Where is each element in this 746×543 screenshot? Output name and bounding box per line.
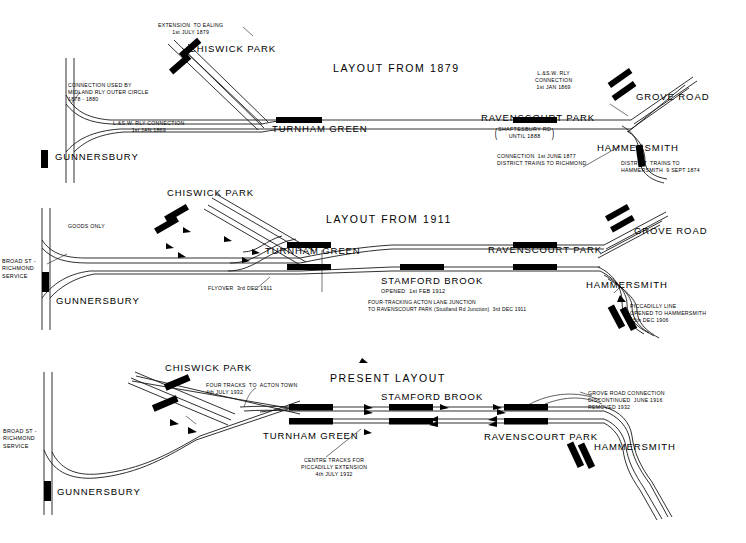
note-flyover-1911: FLYOVER 3rd DEC 1911 xyxy=(208,285,272,292)
station-label-gunnersbury-present: GUNNERSBURY xyxy=(57,487,141,498)
station-label-chiswick-park-1879: CHISWICK PARK xyxy=(189,44,276,55)
platform-stamford-brook-present-b xyxy=(389,418,433,425)
station-label-stamford-brook-present: STAMFORD BROOK xyxy=(381,392,483,403)
station-label-gunnersbury-1911: GUNNERSBURY xyxy=(56,296,140,307)
note-centre-tracks-piccadilly: CENTRE TRACKS FOR PICCADILLY EXTENSION 4… xyxy=(301,457,367,477)
note-four-tracks-acton-town: FOUR TRACKS TO ACTON TOWN 4th JULY 1932 xyxy=(206,382,298,396)
station-label-hammersmith-present: HAMMERSMITH xyxy=(594,442,676,453)
note-richmond-connection-1877: CONNECTION 1st JUNE 1877 DISTRICT TRAINS… xyxy=(497,153,586,167)
note-lswr-connection-east: L.&S.W. RLY CONNECTION 1st JAN 1869 xyxy=(535,70,572,90)
note-four-tracking-1911: FOUR-TRACKING ACTON LANE JUNCTION TO RAV… xyxy=(368,299,526,312)
platform-turnham-green-present-a xyxy=(289,404,333,411)
panel-title-1911: LAYOUT FROM 1911 xyxy=(326,213,452,225)
platform-ravenscourt-park-1911-b xyxy=(513,264,557,270)
note-ravenscourt-former-name-text: SHAFTESBURY RD UNTIL 1888 xyxy=(498,126,551,140)
platform-stamford-brook-present-a xyxy=(389,404,433,411)
note-midland-outer-circle: CONNECTION USED BY MIDLAND RLY OUTER CIR… xyxy=(68,82,148,102)
station-label-stamford-brook-1911: STAMFORD BROOK xyxy=(381,276,483,287)
paren-close: ) xyxy=(552,127,554,139)
note-ravenscourt-former-name: ( SHAFTESBURY RD UNTIL 1888 ) xyxy=(494,126,555,140)
station-label-ravenscourt-park-1911: RAVENSCOURT PARK xyxy=(488,245,602,256)
station-label-turnham-green-present: TURNHAM GREEN xyxy=(263,431,359,442)
note-district-trains-hammersmith: DISTRICT TRAINS TO HAMMERSMITH 9 SEPT 18… xyxy=(621,160,700,174)
platform-ravenscourt-park-present-b xyxy=(504,418,548,425)
note-grove-road-discontinued: GROVE ROAD CONNECTION DISCONTINUED JUNE … xyxy=(588,390,665,410)
station-label-grove-road-1879: GROVE ROAD xyxy=(636,92,709,103)
note-goods-only: GOODS ONLY xyxy=(68,223,105,230)
platform-turnham-green-1911-b xyxy=(287,264,331,270)
paren-open: ( xyxy=(495,127,497,139)
note-broad-st-richmond-1911: BROAD ST - RICHMOND SERVICE xyxy=(2,258,36,280)
platform-turnham-green-present-b xyxy=(289,418,333,425)
station-label-ravenscourt-park-1879: RAVENSCOURT PARK xyxy=(481,113,595,124)
platform-chiswick-park-present-a xyxy=(164,374,191,391)
station-label-gunnersbury-1879: GUNNERSBURY xyxy=(55,152,139,163)
station-label-hammersmith-1879: HAMMERSMITH xyxy=(597,143,679,154)
platform-gunnersbury-1879 xyxy=(41,150,48,168)
track-layout-diagram: LAYOUT FROM 1879 EXTENSION TO EALING 1st… xyxy=(0,0,746,543)
note-broad-st-richmond-present: BROAD ST - RICHMOND SERVICE xyxy=(3,428,37,450)
station-label-chiswick-park-1911: CHISWICK PARK xyxy=(167,188,254,199)
panel-1879-platforms xyxy=(41,38,645,168)
note-piccadilly-line-opened: PICCADILLY LINE OPENED TO HAMMERSMITH 15… xyxy=(630,303,706,323)
station-label-ravenscourt-park-present: RAVENSCOURT PARK xyxy=(484,432,598,443)
station-label-hammersmith-1911: HAMMERSMITH xyxy=(586,280,668,291)
station-label-turnham-green-1879: TURNHAM GREEN xyxy=(272,124,368,135)
platform-chiswick-park-1879-b xyxy=(169,54,191,75)
station-label-turnham-green-1911: TURNHAM GREEN xyxy=(265,246,361,257)
note-stamford-brook-opened: OPENED 1st FEB 1912 xyxy=(381,288,445,295)
note-extension-to-ealing: EXTENSION TO EALING 1st JULY 1879 xyxy=(158,22,223,36)
station-label-chiswick-park-present: CHISWICK PARK xyxy=(165,363,252,374)
platform-stamford-brook-1911 xyxy=(400,264,444,270)
panel-title-present: PRESENT LAYOUT xyxy=(330,372,446,384)
platform-gunnersbury-present xyxy=(44,481,51,501)
panel-1879-tracks xyxy=(66,27,697,183)
note-lswr-connection-west: L.&S.W. RLY CONNECTION 1st JAN 1869 xyxy=(113,120,185,134)
station-label-grove-road-1911: GROVE ROAD xyxy=(634,226,707,237)
platform-gunnersbury-1911 xyxy=(42,272,49,292)
platform-chiswick-park-present-b xyxy=(152,395,179,412)
panel-title-1879: LAYOUT FROM 1879 xyxy=(333,62,460,74)
platform-ravenscourt-park-present-a xyxy=(504,404,548,411)
